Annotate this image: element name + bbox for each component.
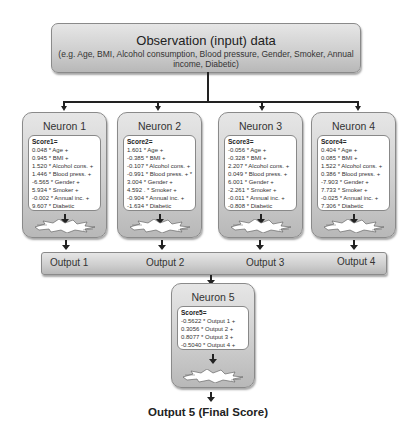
outputs-bar: Output 1 Output 2 Output 3 Output 4 — [41, 252, 387, 275]
output-2-label: Output 2 — [146, 257, 184, 268]
observation-subtitle: (e.g. Age, BMI, Alcohol consumption, Blo… — [52, 49, 360, 69]
score-label: Score4= — [321, 138, 386, 146]
score-term: 0.386 * Blood press. + — [321, 170, 386, 178]
arrow-down-icon — [158, 240, 166, 250]
neuron-title: Neuron 4 — [312, 120, 395, 132]
score-term: 1.446 * Blood press. + — [32, 170, 97, 178]
arrow-down-icon — [207, 392, 215, 402]
neuron-title: Neuron 5 — [172, 291, 254, 303]
arrow-down-icon — [355, 106, 361, 111]
score-formula: Score2= 1.601 * Age + -0.385 * BMI + -0.… — [123, 135, 196, 211]
score-term: -0.385 * BMI + — [127, 154, 192, 162]
activation-burst-icon — [33, 219, 97, 233]
score-term: -0.5040 * Output 4 + — [181, 341, 245, 349]
score-term: -0.056 * Age + — [228, 146, 293, 154]
score-term: 1.601 * Age + — [127, 146, 192, 154]
score-formula: Score4= 0.404 * Age + 0.085 * BMI + 1.52… — [317, 135, 390, 211]
score-term: -0.328 * BMI + — [228, 154, 293, 162]
score-term: -1.634 * Diabetic — [127, 202, 192, 210]
score-term: 2.207 * Alcohol cons. + — [228, 162, 293, 170]
neuron-title: Neuron 1 — [23, 120, 106, 132]
score-term: 1.520 * Alcohol cons. + — [32, 162, 97, 170]
arrow-down-icon — [155, 106, 161, 111]
score-term: -2.261 * Smoker + — [228, 186, 293, 194]
arrow-down-icon — [350, 240, 358, 250]
score-label: Score3= — [228, 138, 293, 146]
activation-burst-icon — [322, 219, 386, 233]
score-label: Score1= — [32, 138, 97, 146]
final-output-label: Output 5 (Final Score) — [0, 406, 416, 418]
arrow-down-icon — [259, 106, 265, 111]
score-term: 6.001 * Gender + — [228, 178, 293, 186]
score-term: 0.945 * BMI + — [32, 154, 97, 162]
arrow-down-icon — [209, 354, 217, 364]
activation-burst-icon — [128, 219, 192, 233]
score-label: Score2= — [127, 138, 192, 146]
score-term: 7.733 * Smoker + — [321, 186, 386, 194]
score-term: -0.002 * Annual inc. + — [32, 194, 97, 202]
score-term: 1.522 * Alcohol cons. + — [321, 162, 386, 170]
score-term: -0.011 * Annual inc. + — [228, 194, 293, 202]
neuron-title: Neuron 2 — [118, 120, 201, 132]
score-term: 3.004 * Gender + — [127, 178, 192, 186]
arrow-down-icon — [256, 240, 264, 250]
score-term: 0.048 * Age + — [32, 146, 97, 154]
score-term: -0.107 * Alcohol cons. + — [127, 162, 192, 170]
score-term: -0.5622 * Output 1 + — [181, 317, 245, 325]
score-formula: Score3= -0.056 * Age + -0.328 * BMI + 2.… — [224, 135, 297, 211]
neuron-4: Neuron 4 Score4= 0.404 * Age + 0.085 * B… — [311, 112, 396, 238]
arrow-down-icon — [61, 106, 67, 111]
activation-burst-icon — [229, 219, 293, 233]
activation-burst-icon — [181, 369, 245, 383]
connector-horizontal — [63, 101, 359, 103]
output-3-label: Output 3 — [246, 257, 284, 268]
score-term: 9.607 * Diabetic — [32, 202, 97, 210]
score-term: 0.049 * Blood press. + — [228, 170, 293, 178]
neuron-3: Neuron 3 Score3= -0.056 * Age + -0.328 *… — [218, 112, 303, 238]
score-term: 5.934 * Smoker + — [32, 186, 97, 194]
score-term: 4.592 . * Smoker + — [127, 186, 192, 194]
score-term: 0.3056 * Output 2 + — [181, 325, 245, 333]
output-4-label: Output 4 — [337, 256, 375, 267]
neuron-1: Neuron 1 Score1= 0.048 * Age + 0.945 * B… — [22, 112, 107, 238]
score-term: -0.991 * Blood press. + * — [127, 170, 192, 178]
connector-trunk — [207, 72, 209, 102]
score-term: -0.904 * Annual inc. + — [127, 194, 192, 202]
score-term: 0.085 * BMI + — [321, 154, 386, 162]
score-formula: Score1= 0.048 * Age + 0.945 * BMI + 1.52… — [28, 135, 101, 211]
score-term: -6.565 * Gender + — [32, 178, 97, 186]
neuron-title: Neuron 3 — [219, 120, 302, 132]
observation-title: Observation (input) data — [52, 33, 360, 48]
score-term: -0.808 * Diabetic — [228, 202, 293, 210]
score-term: 0.8077 * Output 3 + — [181, 333, 245, 341]
score-label: Score5= — [181, 309, 245, 317]
neuron-2: Neuron 2 Score2= 1.601 * Age + -0.385 * … — [117, 112, 202, 238]
observation-input-box: Observation (input) data (e.g. Age, BMI,… — [51, 23, 361, 73]
score-formula: Score5= -0.5622 * Output 1 + 0.3056 * Ou… — [177, 306, 249, 350]
score-term: -7.903 * Gender + — [321, 178, 386, 186]
output-1-label: Output 1 — [50, 257, 88, 268]
score-term: -0.025 * Annual inc. + — [321, 194, 386, 202]
arrow-down-icon — [62, 240, 70, 250]
score-term: 7.306 * Diabetic — [321, 202, 386, 210]
score-term: 0.404 * Age + — [321, 146, 386, 154]
neuron-5: Neuron 5 Score5= -0.5622 * Output 1 + 0.… — [171, 283, 255, 388]
